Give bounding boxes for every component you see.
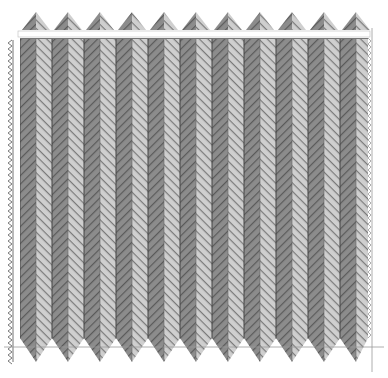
white-separator-bar [18,31,370,37]
top-zigzag-border [22,12,370,30]
herringbone-canvas [0,0,388,378]
herringbone-field [20,38,372,364]
